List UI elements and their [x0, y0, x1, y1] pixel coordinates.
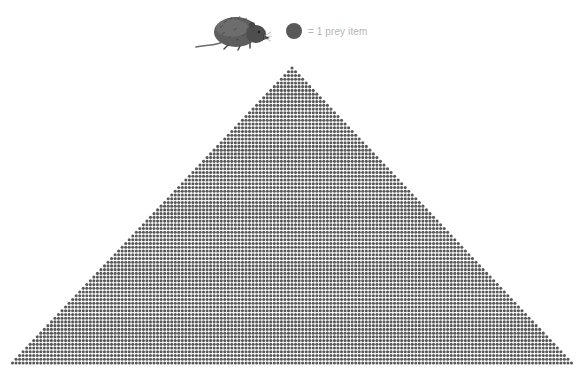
prey-dots [11, 66, 573, 364]
prey-pyramid-chart [0, 0, 585, 378]
